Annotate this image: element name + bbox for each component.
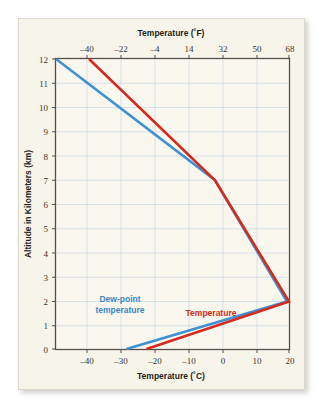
y-tick-label: 3 — [44, 273, 49, 283]
y-tick-label: 6 — [44, 200, 49, 210]
plot-area — [56, 59, 290, 350]
top-tick-label: 68 — [286, 44, 296, 54]
top-tick-label: –4 — [150, 44, 161, 54]
bottom-axis-title: Temperature (˚C) — [137, 371, 205, 381]
y-tick-label: 10 — [39, 103, 49, 113]
dew-point-label-line2: temperature — [95, 305, 144, 315]
y-tick-label: 4 — [44, 249, 49, 259]
top-tick-label: 14 — [185, 44, 195, 54]
atmospheric-sounding-chart: Temperature (˚F) –40 –22 –4 14 32 50 68 — [19, 19, 306, 391]
y-tick-label: 5 — [44, 224, 49, 234]
temperature-label: Temperature — [186, 308, 237, 318]
top-tick-label: –22 — [113, 44, 128, 54]
top-tick-label: 50 — [253, 44, 263, 54]
y-axis-title: Altitude in Kilometers (km) — [23, 150, 33, 258]
bottom-tick-labels: –40 –30 –20 –10 0 10 20 — [79, 356, 295, 366]
bottom-tick-label: 0 — [221, 356, 226, 366]
y-tick-label: 7 — [44, 176, 49, 186]
bottom-tick-label: –30 — [113, 356, 128, 366]
bottom-tick-label: 20 — [286, 356, 296, 366]
top-axis-title: Temperature (˚F) — [138, 28, 205, 38]
top-tick-label: 32 — [219, 44, 228, 54]
figure-panel: Temperature (˚F) –40 –22 –4 14 32 50 68 — [18, 18, 305, 390]
bottom-tick-label: 10 — [253, 356, 263, 366]
bottom-tick-label: –20 — [147, 356, 162, 366]
y-tick-label: 8 — [44, 152, 49, 162]
bottom-tick-label: –10 — [181, 356, 196, 366]
y-tick-label: 11 — [39, 79, 48, 89]
y-tick-label: 9 — [44, 127, 49, 137]
y-tick-label: 0 — [44, 345, 49, 355]
y-tick-label: 12 — [39, 55, 48, 65]
y-tick-label: 1 — [44, 321, 49, 331]
y-tick-label: 2 — [44, 297, 49, 307]
top-tick-label: –40 — [79, 44, 94, 54]
y-tick-labels: 0 1 2 3 4 5 6 7 8 9 10 11 12 — [39, 55, 49, 355]
top-tick-labels: –40 –22 –4 14 32 50 68 — [79, 44, 295, 54]
dew-point-label-line1: Dew-point — [99, 294, 140, 304]
bottom-tick-label: –40 — [79, 356, 94, 366]
